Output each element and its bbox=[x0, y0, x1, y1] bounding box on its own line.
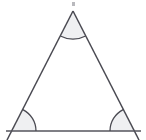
triangle-left-side bbox=[7, 11, 73, 140]
triangle-diagram bbox=[0, 0, 146, 140]
apex-angle-fill bbox=[60, 11, 85, 39]
bottom-left-angle-fill bbox=[12, 110, 36, 131]
triangle-right-side bbox=[73, 11, 139, 140]
scan-artifact-speck bbox=[72, 2, 75, 6]
geometry-canvas bbox=[0, 0, 146, 140]
bottom-right-angle-fill bbox=[110, 110, 134, 131]
